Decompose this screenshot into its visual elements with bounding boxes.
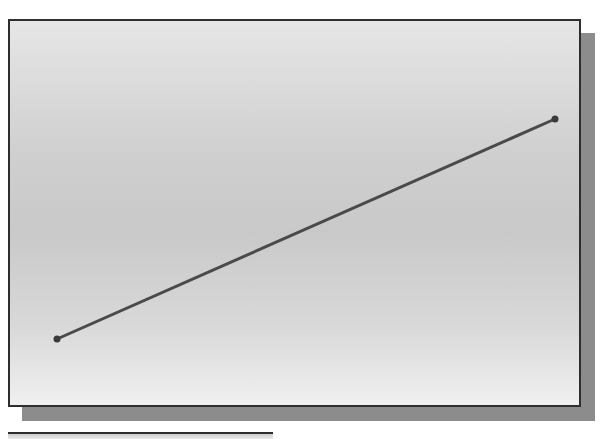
drawing-canvas[interactable] — [10, 21, 579, 405]
line-segment[interactable] — [57, 119, 555, 339]
next-viewport-edge — [8, 432, 273, 439]
line-start-point[interactable] — [54, 336, 61, 343]
line-end-point[interactable] — [552, 116, 559, 123]
drawing-viewport[interactable] — [8, 19, 581, 407]
